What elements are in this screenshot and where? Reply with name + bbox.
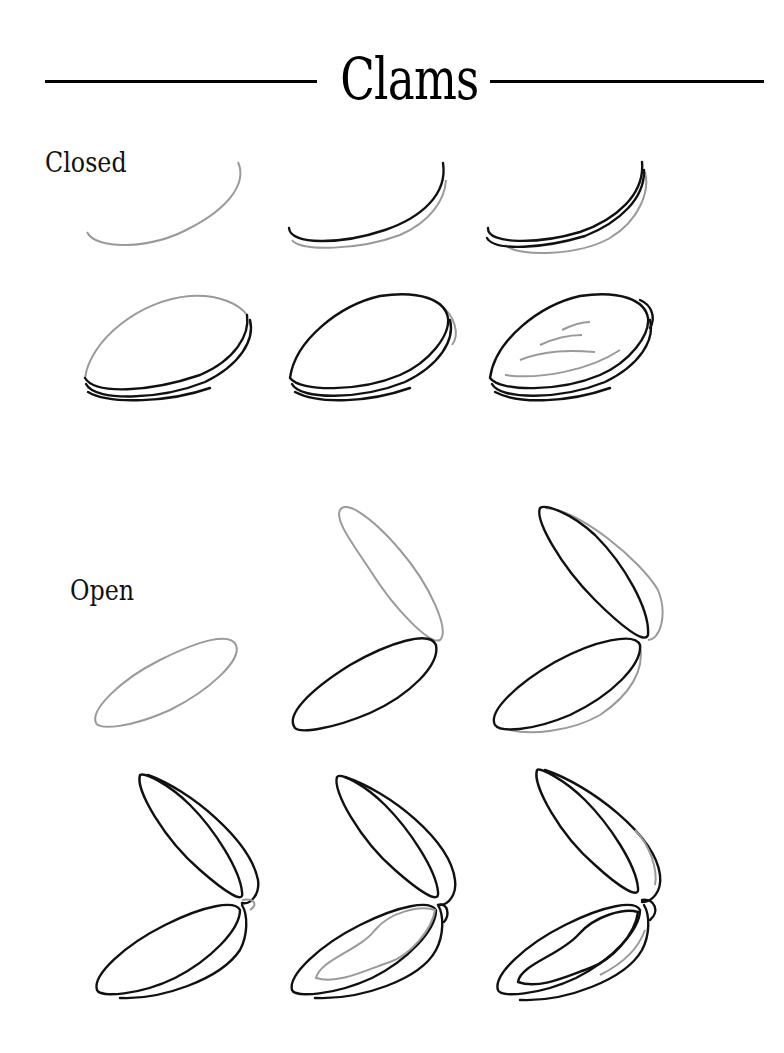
closed-step-5: [290, 294, 456, 400]
open-step-2: [293, 507, 443, 730]
closed-step-4: [85, 296, 251, 401]
open-step-4: [96, 775, 258, 999]
open-step-6: [497, 770, 660, 1001]
closed-step-1: [87, 162, 240, 245]
closed-step-3: [487, 162, 646, 253]
open-step-1: [95, 639, 236, 727]
open-step-3: [494, 507, 663, 732]
closed-step-2: [289, 163, 446, 248]
clam-drawing-steps: [0, 0, 784, 1053]
closed-step-6: [490, 294, 653, 400]
open-step-5: [292, 776, 456, 998]
